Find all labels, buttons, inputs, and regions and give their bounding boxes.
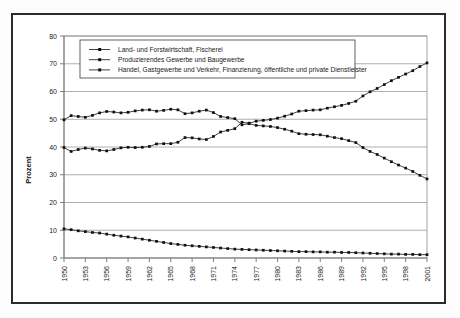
data-point xyxy=(269,249,272,252)
x-tick-label: 1956 xyxy=(103,266,110,282)
data-point xyxy=(77,115,80,118)
data-point xyxy=(184,244,187,247)
data-point xyxy=(354,141,357,144)
data-point xyxy=(383,83,386,86)
x-axis-ticks: 1950195319561959196219651968197119741977… xyxy=(61,258,431,282)
data-point xyxy=(212,135,215,138)
y-tick-label: 30 xyxy=(49,171,57,178)
data-point xyxy=(233,248,236,251)
data-point xyxy=(120,235,123,238)
data-point xyxy=(84,147,87,150)
data-point xyxy=(354,100,357,103)
data-point xyxy=(91,231,94,234)
data-point xyxy=(184,136,187,139)
data-point xyxy=(283,128,286,131)
legend-item-2[interactable]: Handel, Gastgewerbe und Verkehr, Finanzi… xyxy=(89,66,368,74)
data-point xyxy=(134,146,137,149)
data-point xyxy=(404,253,407,256)
data-point xyxy=(347,139,350,142)
data-point xyxy=(198,138,201,141)
chart-page: 01020304050607080 1950195319561959196219… xyxy=(0,0,460,318)
data-point xyxy=(376,153,379,156)
data-point xyxy=(390,160,393,163)
data-point xyxy=(340,137,343,140)
data-point xyxy=(63,228,66,231)
data-point xyxy=(177,108,180,111)
data-point xyxy=(141,109,144,112)
y-tick-label: 70 xyxy=(49,60,57,67)
data-point xyxy=(262,249,265,252)
data-point xyxy=(390,79,393,82)
data-series-layer xyxy=(63,62,429,256)
x-tick-label: 1962 xyxy=(146,266,153,282)
data-point xyxy=(333,136,336,139)
data-point xyxy=(84,230,87,233)
data-point xyxy=(148,108,151,111)
data-point xyxy=(191,136,194,139)
data-point xyxy=(319,108,322,111)
data-point xyxy=(134,237,137,240)
data-point xyxy=(397,76,400,79)
chart-frame: 01020304050607080 1950195319561959196219… xyxy=(11,13,446,304)
data-point xyxy=(376,87,379,90)
data-point xyxy=(105,150,108,153)
data-point xyxy=(169,242,172,245)
data-point xyxy=(112,111,115,114)
data-point xyxy=(369,252,372,255)
data-point xyxy=(255,120,258,123)
data-point xyxy=(212,111,215,114)
x-tick-label: 1989 xyxy=(338,266,345,282)
data-point xyxy=(155,110,158,113)
legend-marker xyxy=(98,68,101,71)
data-point xyxy=(262,119,265,122)
data-point xyxy=(134,110,137,113)
data-point xyxy=(354,251,357,254)
legend-label: Land- und Forstwirtschaft, Fischerei xyxy=(118,46,223,53)
data-point xyxy=(112,148,115,151)
data-point xyxy=(98,232,101,235)
data-point xyxy=(305,133,308,136)
data-point xyxy=(241,248,244,251)
data-point xyxy=(98,149,101,152)
x-tick-label: 1998 xyxy=(402,266,409,282)
data-point xyxy=(312,133,315,136)
data-point xyxy=(298,250,301,253)
data-point xyxy=(369,90,372,93)
data-point xyxy=(347,251,350,254)
y-tick-label: 10 xyxy=(49,227,57,234)
data-point xyxy=(98,112,101,115)
y-tick-label: 50 xyxy=(49,116,57,123)
series-0 xyxy=(63,228,429,257)
data-point xyxy=(155,143,158,146)
data-point xyxy=(333,251,336,254)
x-tick-label: 1968 xyxy=(189,266,196,282)
data-point xyxy=(120,112,123,115)
data-point xyxy=(63,118,66,121)
data-point xyxy=(276,126,279,129)
data-point xyxy=(141,146,144,149)
x-tick-label: 1992 xyxy=(360,266,367,282)
data-point xyxy=(283,115,286,118)
data-point xyxy=(169,142,172,145)
data-point xyxy=(290,250,293,253)
y-tick-label: 0 xyxy=(53,255,57,262)
data-point xyxy=(127,236,130,239)
data-point xyxy=(205,246,208,249)
data-point xyxy=(397,164,400,167)
data-point xyxy=(298,110,301,113)
chart-area: 01020304050607080 1950195319561959196219… xyxy=(13,15,448,306)
legend-label: Handel, Gastgewerbe und Verkehr, Finanzi… xyxy=(118,66,368,74)
data-point xyxy=(340,251,343,254)
data-point xyxy=(77,229,80,232)
data-point xyxy=(127,111,130,114)
x-tick-label: 1980 xyxy=(274,266,281,282)
line-chart: 01020304050607080 1950195319561959196219… xyxy=(13,15,448,306)
data-point xyxy=(419,174,422,177)
chart-legend: Land- und Forstwirtschaft, FischereiProd… xyxy=(80,40,368,78)
data-point xyxy=(326,135,329,138)
y-tick-label: 40 xyxy=(49,144,57,151)
y-axis-ticks: 01020304050607080 xyxy=(49,33,64,262)
data-point xyxy=(404,167,407,170)
data-point xyxy=(411,69,414,72)
data-point xyxy=(426,178,429,181)
